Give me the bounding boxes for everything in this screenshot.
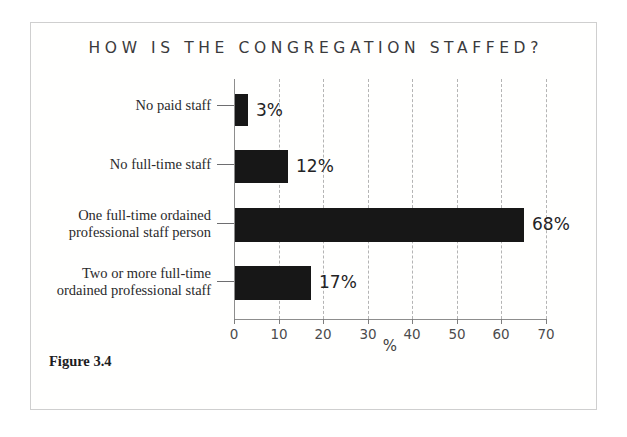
category-label-no-paid-staff: No paid staff — [136, 97, 211, 114]
tick-mark-70 — [546, 319, 547, 324]
tick-mark-50 — [457, 319, 458, 324]
bar-value-one-full-time-ordained: 68% — [532, 216, 570, 233]
gridline-60 — [501, 79, 502, 319]
leader-line-2 — [217, 164, 235, 165]
tick-mark-60 — [501, 319, 502, 324]
gridline-70 — [546, 79, 547, 319]
bar-no-full-time-staff — [235, 150, 288, 183]
figure-frame: HOW IS THE CONGREGATION STAFFED? No paid… — [30, 22, 597, 410]
figure-caption: Figure 3.4 — [49, 353, 112, 370]
bar-one-full-time-ordained — [235, 208, 524, 242]
tick-mark-0 — [234, 319, 235, 324]
gridline-50 — [457, 79, 458, 319]
category-label-two-or-more-full-time: Two or more full-time ordained professio… — [57, 265, 211, 298]
bar-value-no-full-time-staff: 12% — [296, 158, 334, 175]
x-axis-title: % — [234, 337, 546, 355]
leader-line-3 — [217, 223, 235, 224]
leader-line-4 — [217, 281, 235, 282]
bar-no-paid-staff — [235, 94, 248, 126]
tick-mark-30 — [368, 319, 369, 324]
tick-mark-10 — [279, 319, 280, 324]
chart-title: HOW IS THE CONGREGATION STAFFED? — [31, 39, 596, 57]
bar-value-two-or-more-full-time: 17% — [319, 274, 357, 291]
tick-mark-20 — [323, 319, 324, 324]
category-label-group: No paid staff No full-time staff One ful… — [45, 79, 211, 319]
plot-area: 3% 12% 68% 17% 0 10 20 30 40 50 60 70 — [234, 79, 546, 319]
category-label-no-full-time-staff: No full-time staff — [110, 156, 211, 173]
leader-line-group — [217, 79, 235, 319]
gridline-30 — [368, 79, 369, 319]
category-label-one-full-time-ordained: One full-time ordained professional staf… — [69, 207, 211, 240]
bar-two-or-more-full-time — [235, 266, 311, 300]
leader-line-1 — [217, 105, 235, 106]
gridline-40 — [412, 79, 413, 319]
tick-mark-40 — [412, 319, 413, 324]
bar-value-no-paid-staff: 3% — [256, 102, 283, 119]
